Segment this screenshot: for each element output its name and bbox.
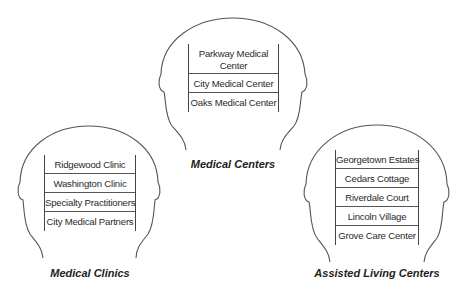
list-item: Riverdale Court	[336, 188, 418, 207]
list-item: Oaks Medical Center	[189, 93, 278, 112]
list-item: Specialty Practitioners	[45, 193, 135, 212]
assisted-living-title: Assisted Living Centers	[311, 267, 443, 279]
medical-clinics-list: Ridgewood Clinic Washington Clinic Speci…	[44, 155, 136, 231]
list-item: Georgetown Estates	[336, 150, 418, 169]
medical-clinics-title: Medical Clinics	[40, 267, 140, 279]
list-item: City Medical Partners	[45, 212, 135, 231]
list-item: Grove Care Center	[336, 226, 418, 245]
medical-centers-list: Parkway Medical Center City Medical Cent…	[188, 44, 279, 112]
list-item: Cedars Cottage	[336, 169, 418, 188]
assisted-living-list: Georgetown Estates Cedars Cottage Riverd…	[335, 150, 419, 245]
list-item: Parkway Medical Center	[189, 44, 278, 74]
list-item: Ridgewood Clinic	[45, 155, 135, 174]
list-item: City Medical Center	[189, 74, 278, 93]
medical-centers-title: Medical Centers	[183, 158, 283, 170]
list-item: Washington Clinic	[45, 174, 135, 193]
list-item: Lincoln Village	[336, 207, 418, 226]
